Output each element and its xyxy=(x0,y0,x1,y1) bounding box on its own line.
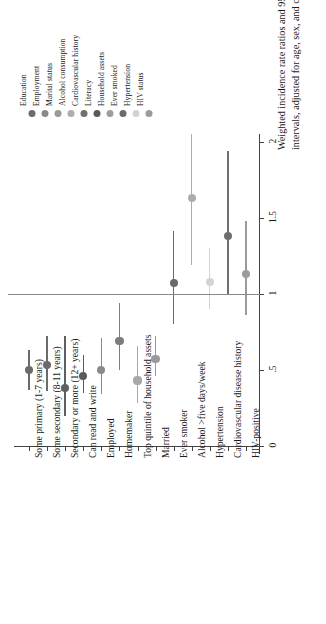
legend-dot-icon xyxy=(107,110,114,117)
estimate-marker xyxy=(188,194,196,202)
estimate-marker xyxy=(79,372,87,380)
value-tick-label: 1.5 xyxy=(268,206,278,228)
confidence-interval-bar xyxy=(173,231,174,324)
confidence-interval-bar xyxy=(64,336,65,415)
category-label: Alcohol >five days/week xyxy=(196,361,207,458)
legend-dot-icon xyxy=(120,110,127,117)
confidence-interval-bar xyxy=(227,151,228,294)
legend-dot-icon xyxy=(146,110,153,117)
estimate-marker xyxy=(170,279,178,287)
legend-dot-icon xyxy=(133,110,140,117)
legend: EducationEmploymentMarital statusAlcohol… xyxy=(0,0,200,120)
category-label: Homemaker xyxy=(123,411,134,458)
value-tick xyxy=(259,370,264,371)
category-tick xyxy=(119,446,120,451)
value-tick xyxy=(259,218,264,219)
reference-line xyxy=(8,294,260,295)
category-tick xyxy=(174,446,175,451)
value-tick xyxy=(259,142,264,143)
estimate-marker xyxy=(25,366,33,374)
legend-item-label: Employment xyxy=(32,66,41,106)
legend-dot-icon xyxy=(68,110,75,117)
confidence-interval-bar xyxy=(245,221,246,315)
legend-item-label: Household assets xyxy=(97,52,106,106)
category-tick xyxy=(246,446,247,451)
legend-dot-icon xyxy=(42,110,49,117)
axis-title-line: Weighted incidence rate ratios and 95% c… xyxy=(276,0,287,150)
estimate-marker xyxy=(206,278,214,286)
legend-item-label: Hypertension xyxy=(123,64,132,106)
category-label: Top quintile of household assets xyxy=(142,334,153,458)
category-label: Married xyxy=(160,427,171,458)
legend-item-label: Marital status xyxy=(45,63,54,106)
legend-item-label: Cardiovascular history xyxy=(71,35,80,106)
category-tick xyxy=(156,446,157,451)
estimate-marker xyxy=(97,366,105,374)
legend-dot-icon xyxy=(29,110,36,117)
category-label: Hypertension xyxy=(214,406,225,458)
legend-item-label: HIV status xyxy=(136,72,145,106)
legend-item-label: Literacy xyxy=(84,80,93,106)
estimate-marker xyxy=(43,361,51,369)
forest-plot: 0.511.52 Some primary (1-7 years)Some se… xyxy=(0,128,326,468)
category-label: Can read and write xyxy=(87,385,98,458)
legend-item-label: Ever smoked xyxy=(110,65,119,106)
value-tick-label: 0 xyxy=(268,434,278,456)
estimate-marker xyxy=(133,376,141,384)
category-tick xyxy=(47,446,48,451)
category-label: Ever smoker xyxy=(178,409,189,458)
category-tick xyxy=(65,446,66,451)
category-label: Secondary or more (12+ years) xyxy=(69,339,80,458)
confidence-interval-bar xyxy=(137,346,138,404)
legend-dot-icon xyxy=(81,110,88,117)
category-tick xyxy=(210,446,211,451)
category-label: Employed xyxy=(105,419,116,458)
category-tick xyxy=(192,446,193,451)
category-tick xyxy=(29,446,30,451)
estimate-marker xyxy=(115,337,123,345)
category-tick xyxy=(138,446,139,451)
category-tick xyxy=(83,446,84,451)
legend-dot-icon xyxy=(94,110,101,117)
category-tick xyxy=(228,446,229,451)
legend-item-label: Education xyxy=(19,74,28,106)
category-tick xyxy=(101,446,102,451)
axis-title-line: intervals, adjusted for age, sex, and co… xyxy=(290,0,301,150)
category-label: Cardiovascular disease history xyxy=(232,341,243,458)
category-label: HIV-positive xyxy=(250,408,261,458)
legend-dot-icon xyxy=(55,110,62,117)
category-label: Some primary (1-7 years) xyxy=(33,359,44,458)
estimate-marker xyxy=(242,270,250,278)
category-label: Some secondary (8-11 years) xyxy=(51,346,62,458)
value-tick-label: 1 xyxy=(268,282,278,304)
value-tick-label: .5 xyxy=(268,358,278,380)
legend-item-label: Alcohol consumption xyxy=(58,39,67,107)
estimate-marker xyxy=(224,232,232,240)
